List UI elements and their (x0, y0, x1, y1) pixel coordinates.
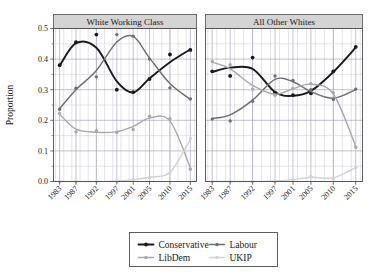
data-point-labour (332, 98, 335, 101)
data-point-labour (58, 108, 61, 111)
y-tick-label: 0.5 (38, 24, 48, 33)
data-point-conservative (168, 53, 172, 57)
data-point-labour (131, 34, 134, 37)
x-tick-label: 2010 (156, 184, 174, 202)
legend-label-labour: Labour (230, 240, 258, 250)
data-point-labour (168, 86, 171, 89)
x-tick-label: 1987 (62, 184, 80, 202)
x-tick-label: 2015 (342, 184, 360, 202)
x-tick-label: 1983 (46, 184, 64, 202)
x-axis-1: 19831987199219972001200520102015 (198, 182, 359, 202)
data-point-conservative (210, 69, 214, 73)
legend-label-libdem: LibDem (159, 253, 191, 263)
y-tick-label: 0.4 (38, 55, 48, 64)
data-point-labour (228, 119, 231, 122)
legend: ConservativeLabourLibDemUKIP (130, 233, 278, 267)
data-point-conservative (228, 74, 232, 78)
panel-all-other-whites: All Other Whites198319871992199720012005… (198, 15, 362, 202)
data-point-libdem (251, 87, 254, 90)
data-point-labour (251, 100, 254, 103)
data-point-labour (291, 79, 294, 82)
data-point-labour (211, 117, 214, 120)
x-tick-label: 2005 (136, 184, 154, 202)
data-point-libdem (168, 117, 171, 120)
data-point-labour (309, 88, 312, 91)
data-point-conservative (131, 90, 135, 94)
faceted-line-chart: White Working Class198319871992199720012… (0, 0, 380, 280)
data-point-libdem (189, 168, 192, 171)
x-axis-0: 19831987199219972001200520102015 (46, 182, 194, 202)
y-tick-label: 0.0 (38, 177, 48, 186)
x-tick-label: 2001 (119, 184, 137, 202)
data-point-conservative (331, 69, 335, 73)
data-point-libdem (58, 112, 61, 115)
legend-marker-labour (215, 243, 218, 246)
y-tick-label: 0.2 (38, 116, 48, 125)
data-point-ukip (332, 177, 335, 180)
data-point-libdem (211, 60, 214, 63)
data-point-libdem (74, 130, 77, 133)
data-point-conservative (74, 40, 78, 44)
data-point-libdem (95, 129, 98, 132)
legend-marker-libdem (144, 256, 147, 259)
panel-white-working-class: White Working Class198319871992199720012… (46, 15, 197, 202)
data-point-conservative (58, 63, 62, 67)
data-point-libdem (115, 131, 118, 134)
data-point-labour (189, 97, 192, 100)
data-point-conservative (251, 56, 255, 60)
legend-label-ukip: UKIP (230, 253, 252, 263)
legend-label-conservative: Conservative (159, 240, 209, 250)
x-tick-label: 1997 (261, 184, 279, 202)
legend-marker-conservative (144, 243, 148, 247)
data-point-libdem (131, 128, 134, 131)
x-tick-label: 2015 (177, 184, 195, 202)
data-point-labour (273, 74, 276, 77)
data-point-libdem (273, 94, 276, 97)
y-axis-title: Proportion (5, 84, 15, 125)
data-point-conservative (115, 88, 119, 92)
data-point-libdem (354, 146, 357, 149)
data-point-conservative (354, 45, 358, 49)
data-point-labour (115, 33, 118, 36)
data-point-conservative (148, 77, 152, 81)
data-point-libdem (228, 63, 231, 66)
data-point-libdem (291, 86, 294, 89)
data-point-libdem (148, 115, 151, 118)
data-point-libdem (309, 82, 312, 85)
data-point-conservative (95, 33, 99, 37)
x-tick-label: 2010 (320, 184, 338, 202)
x-tick-label: 2001 (279, 184, 297, 202)
data-point-labour (95, 75, 98, 78)
panel-strip-label: All Other Whites (253, 17, 315, 27)
data-point-labour (74, 86, 77, 89)
y-tick-label: 0.3 (38, 86, 48, 95)
x-tick-label: 1992 (239, 184, 257, 202)
data-point-conservative (291, 93, 295, 97)
panel-strip-label: White Working Class (86, 17, 164, 27)
data-point-libdem (332, 91, 335, 94)
y-axis: 0.00.10.20.30.40.5 (38, 24, 54, 186)
x-tick-label: 1987 (216, 184, 234, 202)
x-tick-label: 1983 (198, 184, 216, 202)
data-point-conservative (188, 48, 192, 52)
chart-container: White Working Class198319871992199720012… (0, 0, 380, 280)
y-tick-label: 0.1 (38, 147, 48, 156)
data-point-labour (354, 87, 357, 90)
x-tick-label: 2005 (297, 184, 315, 202)
data-point-ukip (189, 137, 192, 140)
x-tick-label: 1992 (83, 184, 101, 202)
data-point-ukip (309, 175, 312, 178)
data-point-ukip (354, 166, 357, 169)
data-point-ukip (168, 171, 171, 174)
x-tick-label: 1997 (103, 184, 121, 202)
data-point-ukip (148, 176, 151, 179)
legend-marker-ukip (215, 256, 218, 259)
data-point-labour (148, 57, 151, 60)
